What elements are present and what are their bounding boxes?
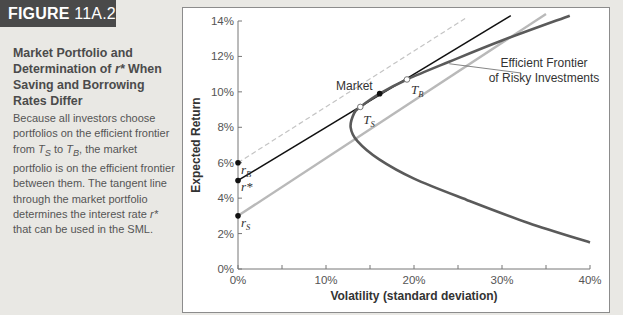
series-solid-thick-darkgray <box>351 16 590 243</box>
point-label: rS <box>241 215 251 232</box>
x-tick-label: 0% <box>230 274 247 286</box>
series-lines <box>238 14 590 243</box>
series-solid-lightgray <box>238 14 546 216</box>
y-tick-label: 12% <box>211 50 234 62</box>
point-label-subscript: S <box>371 119 376 129</box>
x-tick-label: 40% <box>578 274 601 286</box>
x-tick-label: 10% <box>314 274 337 286</box>
y-tick-label: 6% <box>217 157 234 169</box>
point-label: r* <box>241 179 253 194</box>
point-label-subscript: S <box>246 222 251 232</box>
point-TB <box>404 77 410 83</box>
point-label: TB <box>411 82 423 99</box>
point-label: rB <box>241 162 251 179</box>
labels: Efficient Frontierof Risky InvestmentsrB… <box>241 56 599 232</box>
x-tick-label: 30% <box>490 274 513 286</box>
point-label-subscript: B <box>418 89 423 99</box>
y-tick-label: 10% <box>211 86 234 98</box>
point-rB <box>235 160 241 166</box>
point-label-subscript: B <box>246 169 251 179</box>
point-label: Market <box>336 79 373 93</box>
point-rS <box>235 213 241 219</box>
y-axis-title: Expected Return <box>189 97 203 192</box>
y-tick-label: 14% <box>211 15 234 27</box>
x-axis-title: Volatility (standard deviation) <box>330 289 497 303</box>
annotation-text: Efficient Frontier <box>500 56 587 70</box>
y-tick-label: 2% <box>217 228 234 240</box>
point-TS <box>358 104 364 110</box>
y-tick-label: 8% <box>217 121 234 133</box>
x-tick-label: 20% <box>402 274 425 286</box>
y-tick-label: 4% <box>217 192 234 204</box>
point-r-star <box>235 178 241 184</box>
y-tick-label: 0% <box>217 263 234 275</box>
point-Market <box>377 91 383 97</box>
annotation-text: of Risky Investments <box>489 71 600 85</box>
point-label: TS <box>363 112 375 129</box>
chart: 0%10%20%30%40%0%2%4%6%8%10%12%14%Volatil… <box>0 0 623 315</box>
